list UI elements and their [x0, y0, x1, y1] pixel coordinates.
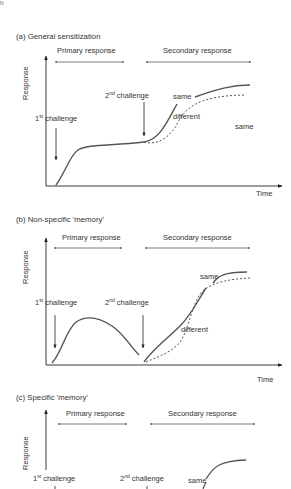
x-axis-label-a: Time — [256, 190, 272, 198]
y-axis-label-a: Response — [22, 66, 30, 100]
second-challenge-label-c: 2nd challenge — [120, 474, 164, 483]
second-challenge-label-b: 2nd challenge — [105, 298, 149, 307]
primary-response-label-c: Primary response — [66, 410, 125, 418]
y-axis-label-b: Response — [22, 250, 30, 284]
second-challenge-label-a: 2nd challenge — [105, 91, 149, 100]
panel-b — [46, 238, 282, 365]
first-challenge-label-a: 1st challenge — [35, 114, 77, 123]
primary-response-label-b: Primary response — [62, 234, 121, 242]
secondary-response-label-c: Secondary response — [168, 410, 237, 418]
same-curve-a — [195, 85, 250, 97]
first-challenge-label-c: 1st challenge — [33, 474, 75, 483]
same-curve-b — [144, 272, 247, 362]
same-label-b: same — [200, 273, 218, 281]
first-challenge-label-b: 1st challenge — [35, 298, 77, 307]
secondary-response-label-a: Secondary response — [163, 47, 232, 55]
secondary-response-label-b: Secondary response — [163, 234, 232, 242]
y-axis-label-c: Response — [22, 436, 30, 470]
different-curve-b — [146, 278, 250, 362]
same-right-label-a: same — [235, 123, 253, 131]
same-curve-c — [206, 460, 246, 479]
panel-a-title: (a) General sensitization — [16, 33, 101, 41]
different-label-a: different — [173, 113, 200, 121]
x-axis-label-b: Time — [257, 376, 273, 384]
panel-c-title: (c) Specific 'memory' — [16, 394, 88, 402]
primary-response-label-a: Primary response — [57, 47, 116, 55]
primary-curve-b — [52, 318, 139, 363]
panel-b-title: (b) Non-specific 'memory' — [16, 216, 104, 224]
same-label-a: same — [173, 93, 191, 101]
different-label-b: different — [181, 326, 208, 334]
panel-a — [46, 56, 282, 186]
same-label-c: same — [188, 477, 206, 485]
diagram-canvas — [0, 0, 291, 489]
